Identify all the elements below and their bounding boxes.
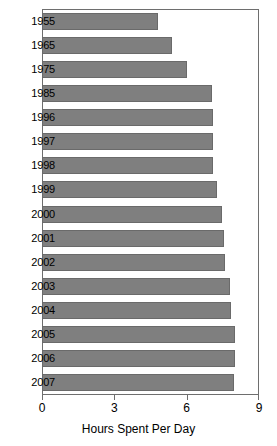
y-axis-label-2001: 2001	[15, 233, 55, 244]
y-axis-label-2006: 2006	[15, 353, 55, 364]
bar-1997	[42, 133, 213, 150]
bar-2006	[42, 350, 235, 367]
y-axis-label-2003: 2003	[15, 281, 55, 292]
bar-1975	[42, 61, 187, 78]
bar-2002	[42, 254, 225, 271]
x-tick-label-6: 6	[175, 402, 199, 415]
bar-row	[42, 61, 259, 78]
bar-row	[42, 181, 259, 198]
bar-2005	[42, 326, 235, 343]
bar-1996	[42, 109, 213, 126]
y-axis-label-2000: 2000	[15, 209, 55, 220]
bar-row	[42, 374, 259, 391]
y-axis-label-1998: 1998	[15, 160, 55, 171]
x-tick-label-0: 0	[30, 402, 54, 415]
bar-row	[42, 157, 259, 174]
y-axis-label-1975: 1975	[15, 64, 55, 75]
bar-row	[42, 206, 259, 223]
y-axis-label-1997: 1997	[15, 136, 55, 147]
bar-1985	[42, 85, 212, 102]
bar-2001	[42, 230, 224, 247]
bar-row	[42, 278, 259, 295]
bar-1999	[42, 181, 217, 198]
bar-row	[42, 85, 259, 102]
y-axis-label-2005: 2005	[15, 329, 55, 340]
bar-2007	[42, 374, 234, 391]
y-axis-label-1955: 1955	[15, 16, 55, 27]
y-axis-label-1985: 1985	[15, 88, 55, 99]
bar-row	[42, 302, 259, 319]
y-axis-label-2007: 2007	[15, 377, 55, 388]
y-axis-label-2004: 2004	[15, 305, 55, 316]
y-axis-label-1999: 1999	[15, 184, 55, 195]
x-tick-label-9: 9	[247, 402, 271, 415]
bar-2000	[42, 206, 222, 223]
x-tick-3	[114, 395, 115, 400]
bar-2004	[42, 302, 231, 319]
bar-row	[42, 254, 259, 271]
bar-row	[42, 109, 259, 126]
bar-row	[42, 133, 259, 150]
bar-row	[42, 13, 259, 30]
x-tick-9	[258, 395, 259, 400]
x-tick-label-3: 3	[102, 402, 126, 415]
bar-1998	[42, 157, 213, 174]
y-axis-label-1996: 1996	[15, 112, 55, 123]
bar-row	[42, 230, 259, 247]
bar-row	[42, 350, 259, 367]
x-tick-0	[42, 395, 43, 400]
bar-row	[42, 37, 259, 54]
bar-1965	[42, 37, 172, 54]
horizontal-bar-chart: 1955196519751985199619971998199920002001…	[0, 0, 277, 446]
y-axis-label-2002: 2002	[15, 257, 55, 268]
y-axis-label-1965: 1965	[15, 40, 55, 51]
bar-1955	[42, 13, 158, 30]
x-tick-6	[187, 395, 188, 400]
bar-row	[42, 326, 259, 343]
x-axis-title: Hours Spent Per Day	[0, 422, 277, 436]
bar-2003	[42, 278, 230, 295]
